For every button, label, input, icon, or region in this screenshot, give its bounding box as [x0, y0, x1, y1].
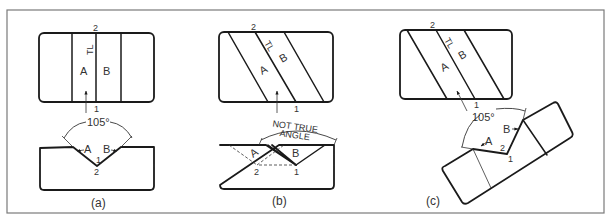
face-a-label: A — [438, 59, 451, 73]
face-a-label: A — [84, 143, 92, 155]
face-b-label: B — [103, 143, 110, 155]
panel-c-top-view: 2 TL A B 1 — [400, 20, 512, 111]
point-2-label: 2 — [500, 143, 505, 153]
point-2-label: 2 — [254, 167, 259, 177]
panel-a: 2 TL A B 1 105° A B 1 2 (a) — [39, 23, 154, 210]
face-a-label: A — [247, 145, 260, 159]
face-b-label: B — [277, 51, 289, 65]
face-b-label: B — [456, 48, 468, 62]
face-a-label: A — [80, 65, 88, 77]
panel-b-edge-view: NOT TRUE ANGLE A B 2 1 — [220, 119, 337, 189]
caption-b: (b) — [272, 194, 287, 208]
point-2-label: 2 — [251, 22, 256, 32]
point-2-label: 2 — [93, 23, 98, 33]
panel-c-auxiliary-view: 105° A B 2 1 — [442, 102, 572, 204]
view-direction-arrow — [457, 91, 467, 111]
caption-c: (c) — [426, 194, 440, 208]
face-b-label: B — [292, 147, 299, 159]
panel-a-edge-view: 105° A B 1 2 — [40, 116, 154, 190]
point-1-label: 1 — [96, 155, 101, 165]
point-1-label: 1 — [508, 154, 513, 164]
face-a-label: A — [485, 135, 493, 147]
caption-a: (a) — [91, 196, 106, 210]
panel-b-top-view: 2 TL A B 1 — [219, 22, 333, 114]
angle-105-label: 105° — [87, 116, 110, 128]
point-1-label: 1 — [474, 100, 479, 110]
point-1-label: 1 — [294, 167, 299, 177]
face-b-label: B — [103, 65, 110, 77]
point-1-label: 1 — [94, 104, 99, 114]
true-length-label: TL — [442, 36, 456, 50]
face-a-label: A — [257, 62, 270, 76]
panel-a-top-view: 2 TL A B 1 — [39, 23, 154, 114]
angle-105-label: 105° — [472, 111, 495, 123]
point-1-label: 1 — [294, 104, 299, 114]
panel-b: 2 TL A B 1 NOT TRUE ANGLE A B 2 1 (b) — [219, 22, 337, 208]
face-b-label: B — [503, 123, 510, 135]
true-length-label: TL — [262, 39, 276, 53]
point-2-label: 2 — [94, 167, 99, 177]
panel-c: 2 TL A B 1 105° A B 2 1 (c) — [400, 20, 573, 208]
point-2-label: 2 — [430, 20, 435, 30]
dihedral-angle-diagram: 2 TL A B 1 105° A B 1 2 (a) — [0, 0, 610, 222]
true-length-label: TL — [85, 44, 95, 55]
